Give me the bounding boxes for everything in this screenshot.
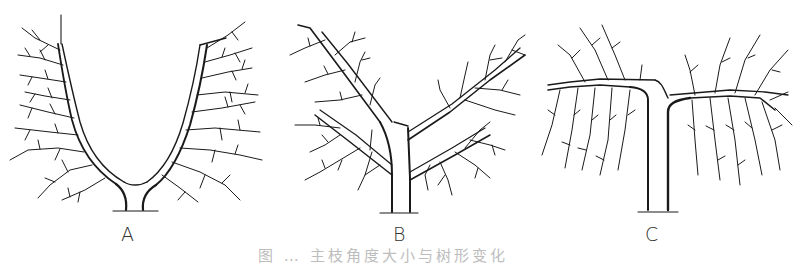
panel-label-b: B bbox=[393, 223, 405, 245]
tree-c-illustration bbox=[530, 0, 798, 222]
panel-label-a: A bbox=[121, 223, 134, 245]
tree-b-illustration bbox=[280, 0, 530, 222]
panel-label-c: C bbox=[645, 223, 658, 245]
tree-a-illustration bbox=[0, 0, 270, 222]
figure-caption: 图 … 主枝角度大小与树形变化 bbox=[258, 249, 558, 264]
